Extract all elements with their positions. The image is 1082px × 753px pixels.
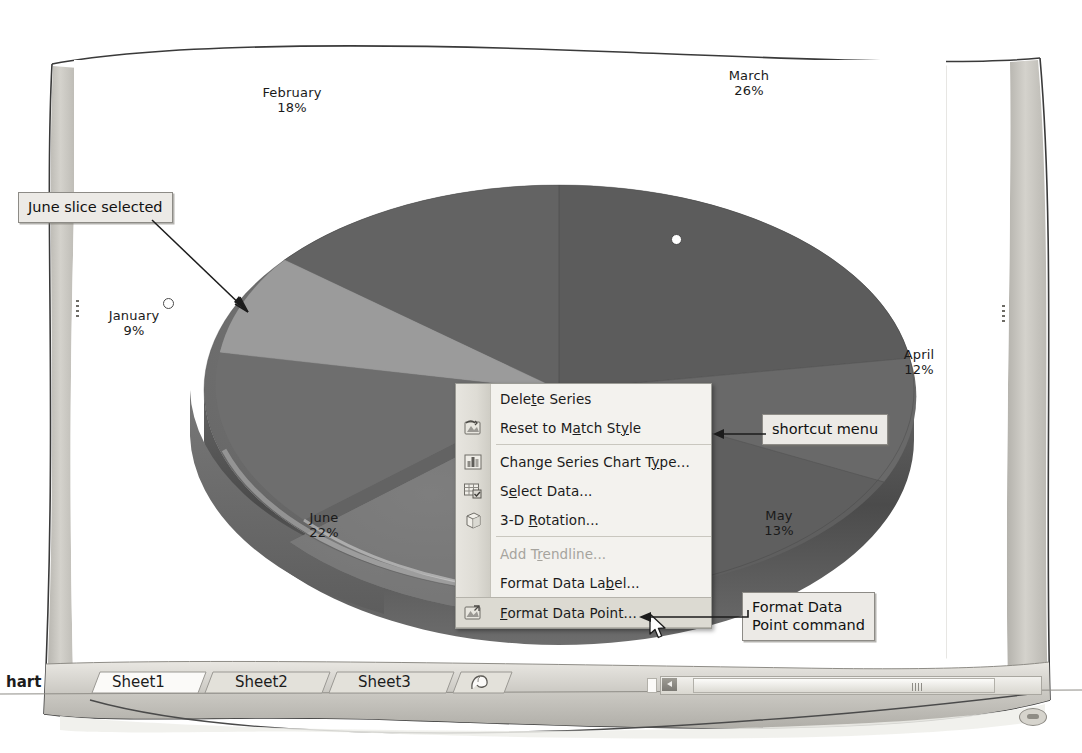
menu-item-label: Add Trendline... [500, 546, 606, 562]
left-margin-dots [76, 300, 79, 320]
menu-item-add-trendline: Add Trendline... [456, 539, 711, 568]
selection-handle-june-outer[interactable] [163, 298, 174, 309]
right-margin-dots [1002, 305, 1005, 325]
menu-item-reset-to-match-style[interactable]: Reset to Match Style [456, 413, 711, 442]
mouse-cursor-icon [649, 613, 671, 643]
sheet-tab-sheet1[interactable]: Sheet1 [112, 673, 165, 691]
sheet-tab-sheet2[interactable]: Sheet2 [235, 673, 288, 691]
sheet-tab-chart[interactable]: hart [6, 673, 41, 691]
chart-type-icon [462, 452, 484, 472]
scrollbar-grip-icon [912, 683, 922, 691]
horizontal-scrollbar[interactable] [660, 676, 1042, 695]
menu-item-3d-rotation[interactable]: 3-D Rotation... [456, 505, 711, 534]
menu-item-select-data[interactable]: Select Data... [456, 476, 711, 505]
scrollbar-split-handle[interactable] [647, 678, 657, 693]
shortcut-menu[interactable]: Delete Series Reset to Match Style [455, 383, 712, 629]
scanned-page: February 18% March 26% April 12% January… [0, 0, 1082, 753]
menu-item-change-series-chart-type[interactable]: Change Series Chart Type... [456, 447, 711, 476]
annotation-june-slice-selected: June slice selected [18, 192, 173, 223]
annotation-format-data-point-command: Format Data Point command [742, 592, 875, 641]
menu-item-label: 3-D Rotation... [500, 512, 599, 528]
menu-separator-2 [496, 536, 711, 537]
status-corner-icon [1019, 708, 1047, 726]
menu-item-format-data-point[interactable]: Format Data Point... [456, 597, 711, 628]
selection-handle-june-center[interactable] [671, 234, 682, 245]
data-label-april: April 12% [874, 347, 946, 377]
sheet-tab-sheet3[interactable]: Sheet3 [358, 673, 411, 691]
scroll-left-button[interactable] [662, 678, 677, 691]
cube-icon [462, 510, 484, 530]
menu-item-label: Format Data Label... [500, 575, 640, 591]
menu-item-format-data-label[interactable]: Format Data Label... [456, 568, 711, 597]
data-label-february: February 18% [237, 85, 347, 115]
scrollbar-thumb[interactable] [693, 678, 995, 693]
select-data-icon [462, 481, 484, 501]
menu-item-label: Reset to Match Style [500, 420, 641, 436]
data-label-january: January 9% [74, 308, 194, 338]
menu-item-label: Delete Series [500, 391, 592, 407]
menu-item-label: Format Data Point... [500, 605, 637, 621]
annotation-shortcut-menu: shortcut menu [762, 414, 888, 445]
data-label-may: May 13% [734, 508, 824, 538]
format-point-icon [462, 603, 484, 623]
menu-item-label: Select Data... [500, 483, 592, 499]
data-label-june: June 22% [274, 510, 374, 540]
insert-worksheet-icon[interactable] [468, 672, 492, 698]
menu-item-label: Change Series Chart Type... [500, 454, 690, 470]
reset-style-icon [462, 418, 484, 438]
menu-item-delete-series[interactable]: Delete Series [456, 384, 711, 413]
data-label-march: March 26% [694, 68, 804, 98]
menu-separator-1 [496, 444, 711, 445]
